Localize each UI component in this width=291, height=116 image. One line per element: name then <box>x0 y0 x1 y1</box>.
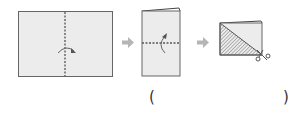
answer-blank[interactable] <box>160 90 280 106</box>
step-3-cut-sheet <box>219 20 273 62</box>
arrow-right-icon <box>197 37 209 48</box>
step-1-sheet <box>18 11 114 78</box>
answer-close-paren: ) <box>283 90 289 105</box>
step-2-folded-sheet <box>141 7 183 78</box>
answer-open-paren: ( <box>149 90 155 105</box>
arrow-right-icon <box>122 37 134 48</box>
